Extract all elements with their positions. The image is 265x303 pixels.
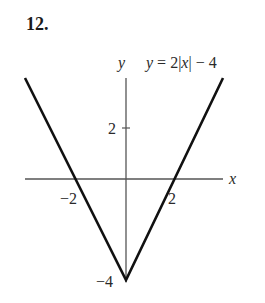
x-tick-label-2: 2 [168,190,176,207]
x-axis-label: x [228,170,236,187]
equation-x: x [180,54,188,71]
equation-label: y = 2|x| − 4 [144,54,217,72]
equation-end: | − 4 [188,54,216,72]
y-tick-label-2: 2 [108,120,116,137]
equation-mid: = 2| [153,54,181,72]
graph: y x y = 2|x| − 4 2 −2 2 −4 [0,0,265,303]
x-tick-label-neg2: −2 [60,190,77,207]
y-axis-label: y [116,54,126,72]
y-tick-label-neg4: −4 [96,273,113,290]
